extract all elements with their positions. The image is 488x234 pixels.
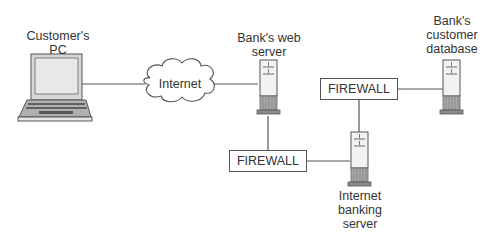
label-line: server xyxy=(325,217,395,231)
server-icon xyxy=(440,60,463,114)
firewall-box: FIREWALL xyxy=(320,78,398,100)
label-line: Bank's web xyxy=(234,31,304,45)
label-line: PC xyxy=(14,43,102,57)
server-icon xyxy=(257,60,280,114)
label-line: server xyxy=(234,45,304,59)
label-line: customer xyxy=(417,28,487,42)
database-label: Bank's customer database xyxy=(417,14,487,56)
label-line: banking xyxy=(325,203,395,217)
internet-label: Internet xyxy=(150,77,210,91)
laptop-icon xyxy=(18,54,92,121)
customer-pc-label: Customer's PC xyxy=(14,29,102,57)
web-server-label: Bank's web server xyxy=(234,31,304,59)
label-line: Bank's xyxy=(417,14,487,28)
server-icon xyxy=(348,132,371,186)
banking-server-label: Internet banking server xyxy=(325,189,395,231)
label-line: database xyxy=(417,42,487,56)
label-line: Internet xyxy=(325,189,395,203)
label-line: Customer's xyxy=(14,29,102,43)
firewall-box: FIREWALL xyxy=(229,150,307,172)
